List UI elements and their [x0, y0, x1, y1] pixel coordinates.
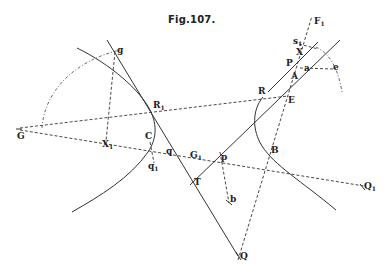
left-construction-arc: [42, 50, 120, 128]
label-G1: G1: [190, 151, 202, 162]
label-X1: X1: [102, 140, 113, 151]
label-e: e: [333, 63, 339, 72]
label-F1: F1: [314, 17, 325, 28]
label-C: C: [145, 132, 152, 141]
label-q1: q1: [148, 162, 158, 173]
label-Q1: Q1: [364, 182, 376, 193]
label-q: q: [166, 147, 172, 156]
label-g: g: [117, 46, 123, 55]
tangent-line-left: [107, 40, 238, 256]
diagram-figure: Fig.107. G g R1 X1 C q q1 G1 p T b Q B Q…: [0, 0, 386, 280]
label-G: G: [17, 132, 25, 141]
short-tangent-line: [268, 42, 318, 92]
right-hyperbola-branch: [255, 97, 336, 210]
label-R1: R1: [153, 101, 165, 112]
label-R: R: [258, 87, 265, 96]
label-A: A: [291, 72, 298, 81]
label-B: B: [271, 146, 279, 155]
figure-title: Fig.107.: [168, 14, 216, 25]
label-a: a: [304, 64, 310, 73]
label-s1: s1: [293, 37, 302, 48]
diagram-canvas: [0, 0, 386, 280]
left-hyperbola-branch: [72, 48, 155, 212]
label-b: b: [230, 195, 236, 204]
label-E: E: [288, 96, 295, 105]
label-T: T: [194, 178, 201, 187]
label-P: P: [286, 59, 293, 68]
label-Q: Q: [240, 252, 248, 261]
tangent-line-right: [190, 40, 340, 185]
label-X: X: [296, 48, 303, 57]
label-p: p: [221, 153, 227, 162]
line-g-X1: [106, 52, 115, 141]
